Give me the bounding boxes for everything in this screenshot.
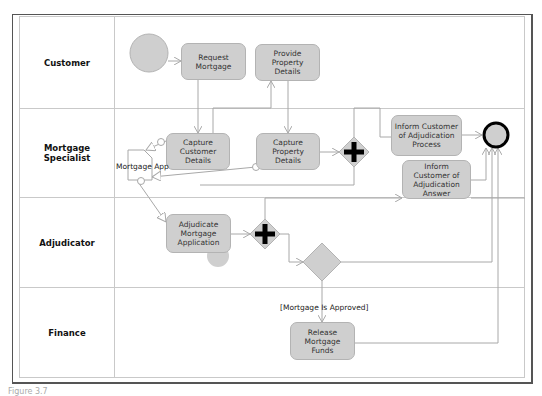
task-request-mortgage[interactable]: Request Mortgage	[181, 43, 246, 80]
task-capture-customer-details[interactable]: Capture Customer Details	[166, 133, 230, 170]
task-provide-property-details[interactable]: Provide Property Details	[255, 44, 320, 81]
task-capture-property-details[interactable]: Capture Property Details	[256, 133, 320, 170]
task-inform-adjudication-answer[interactable]: Inform Customer of Adjudication Answer	[402, 160, 471, 199]
task-adjudicate-mortgage-application[interactable]: Adjudicate Mortgage Application	[166, 214, 231, 253]
end-event-icon	[484, 123, 508, 147]
data-object-label: Mortgage App	[116, 162, 169, 171]
parallel-gateway-icon	[339, 137, 369, 167]
figure-caption: Figure 3.7	[8, 387, 48, 396]
parallel-gateway-icon	[250, 219, 280, 249]
task-release-mortgage-funds[interactable]: Release Mortgage Funds	[290, 322, 355, 360]
condition-label: [Mortgage Is Approved]	[280, 303, 369, 312]
task-inform-adjudication-process[interactable]: Inform Customer of Adjudication Process	[391, 115, 462, 156]
exclusive-gateway-icon	[303, 243, 341, 281]
start-event-icon	[130, 34, 168, 72]
